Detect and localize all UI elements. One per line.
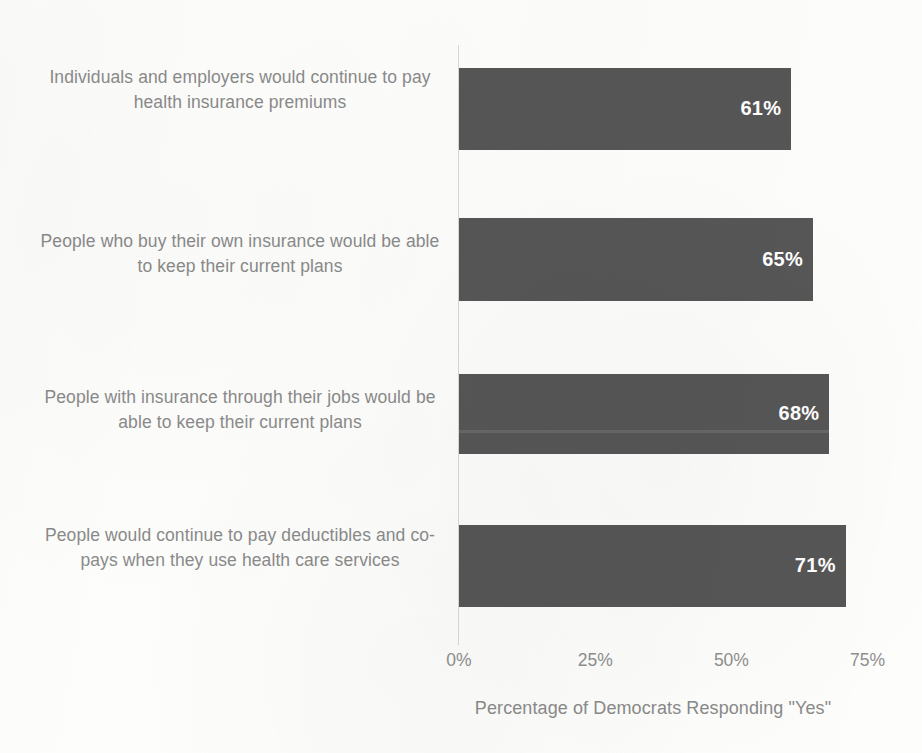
x-axis-title: Percentage of Democrats Responding "Yes": [393, 698, 913, 719]
x-tick-label-0: 0%: [424, 650, 494, 671]
bar-value-label-4: 71%: [726, 554, 836, 577]
category-label-3: People with insurance through their jobs…: [40, 385, 440, 435]
category-label-2: People who buy their own insurance would…: [40, 229, 440, 279]
x-tick-label-50: 50%: [696, 650, 766, 671]
bar-chart: Individuals and employers would continue…: [0, 0, 922, 753]
bar-value-label-1: 61%: [671, 97, 781, 120]
category-label-1: Individuals and employers would continue…: [40, 65, 440, 115]
bar-value-label-3: 68%: [709, 402, 819, 425]
bar-value-label-2: 65%: [693, 248, 803, 271]
plot-area: Individuals and employers would continue…: [0, 0, 922, 753]
x-tick-label-25: 25%: [560, 650, 630, 671]
category-label-4: People would continue to pay deductibles…: [40, 523, 440, 573]
x-tick-label-75: 75%: [833, 650, 903, 671]
